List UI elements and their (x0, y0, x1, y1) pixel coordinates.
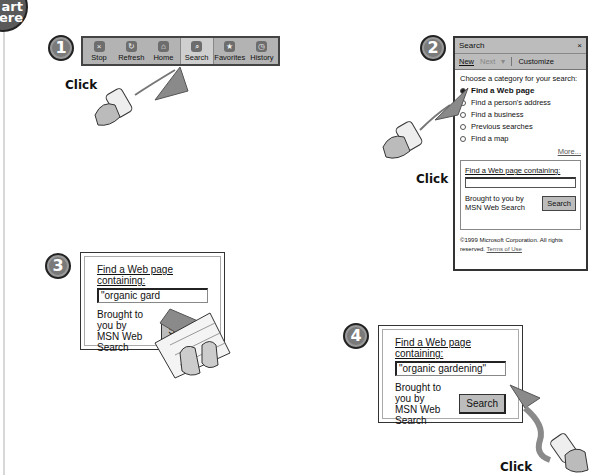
next-dropdown-icon[interactable]: ▾ (501, 57, 505, 66)
copyright-text: ©1999 Microsoft Corporation. All rights … (460, 236, 581, 254)
step-1-arrow-mouse-icon (80, 55, 200, 135)
option-label: Find a Web page (471, 86, 534, 95)
history-icon: ◷ (256, 41, 267, 52)
step-2-click-label: Click (416, 172, 448, 186)
search-input[interactable] (465, 177, 576, 188)
category-prompt: Choose a category for your search: (460, 74, 581, 83)
terms-link[interactable]: Terms of Use (487, 246, 522, 252)
option-find-persons-address[interactable]: Find a person's address (460, 98, 581, 107)
keyboard-typing-icon (150, 283, 230, 378)
web-search-box: Find a Web page containing: Brought to y… (460, 160, 581, 230)
option-find-business[interactable]: Find a business (460, 110, 581, 119)
step-2-badge: 2 (420, 35, 446, 61)
step-4-badge: 4 (343, 323, 369, 349)
favorites-button[interactable]: ★Favorites (214, 38, 246, 64)
option-label: Find a business (471, 110, 524, 119)
history-button[interactable]: ◷History (246, 38, 278, 64)
favorites-icon: ★ (224, 41, 235, 52)
provider-line1: Brought to you by (465, 194, 525, 203)
provider-text: Brought to you byMSN Web Search (465, 194, 525, 212)
search-submit-button[interactable]: Search (542, 196, 576, 211)
customize-button[interactable]: Customize (518, 57, 553, 66)
new-search-button[interactable]: New (459, 57, 474, 66)
step-4-click-label: Click (500, 460, 532, 474)
left-divider (3, 32, 5, 475)
search-input[interactable]: "organic gardening" (395, 361, 506, 376)
home-icon: ⌂ (158, 41, 169, 52)
favorites-label: Favorites (214, 53, 245, 62)
option-find-web-page[interactable]: Find a Web page (460, 86, 581, 95)
provider-line2: MSN Web Search (395, 404, 459, 426)
option-previous-searches[interactable]: Previous searches (460, 122, 581, 131)
step-1-badge: 1 (48, 35, 74, 61)
start-here-line2: ere (0, 12, 23, 23)
search-submit-button[interactable]: Search (459, 394, 506, 414)
option-find-map[interactable]: Find a map (460, 134, 581, 143)
provider-line1: Brought to you by (395, 382, 459, 404)
provider-line2: MSN Web Search (465, 203, 525, 212)
option-label: Find a person's address (471, 98, 551, 107)
toolbar-separator (511, 57, 512, 66)
search-pane-title: Search (459, 41, 484, 50)
search-pane: Search × New Next ▾ Customize Choose a c… (453, 36, 588, 271)
search-icon: ⌕ (191, 41, 202, 52)
next-button[interactable]: Next (480, 57, 495, 66)
search-field-label: Find a Web page containing: (465, 166, 576, 175)
more-link[interactable]: More... (460, 147, 581, 156)
step-2-arrow-mouse-icon (380, 85, 470, 165)
step-3-badge: 3 (45, 253, 71, 279)
start-here-badge: art ere (0, 0, 28, 32)
option-label: Find a map (471, 134, 509, 143)
search-field-label: Find a Web page containing: (395, 337, 506, 359)
refresh-icon: ↻ (126, 41, 137, 52)
search-pane-toolbar: New Next ▾ Customize (455, 54, 586, 70)
search-pane-titlebar: Search × (455, 38, 586, 54)
close-icon[interactable]: × (577, 41, 582, 50)
option-label: Previous searches (471, 122, 533, 131)
stop-icon: × (94, 41, 105, 52)
history-label: History (250, 53, 273, 62)
